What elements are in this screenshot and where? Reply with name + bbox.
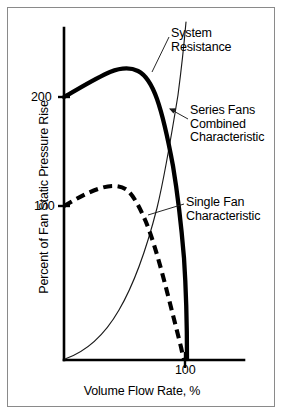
annotation-system-resistance-line2: Resistance [171, 41, 231, 55]
annotation-system-resistance: System Resistance [171, 27, 231, 54]
series-fans-curve [64, 68, 187, 359]
annotation-series-fans-line1: Series Fans [190, 104, 264, 118]
x-axis-title: Volume Flow Rate, % [0, 384, 284, 398]
annotation-series-fans: Series Fans Combined Characteristic [190, 104, 264, 145]
x-axis-tick-label-100: 100 [175, 363, 196, 377]
y-axis-title: Percent of Fan Static Pressure Rise [37, 67, 51, 327]
single-fan-curve [64, 186, 184, 359]
annotation-single-fan-line2: Characteristic [186, 210, 260, 224]
annotation-single-fan-line1: Single Fan [186, 196, 260, 210]
annotation-single-fan: Single Fan Characteristic [186, 196, 260, 223]
fan-curve-figure: 200 100 100 Volume Flow Rate, % Percent … [0, 0, 284, 416]
system-resistance-curve [65, 22, 186, 359]
annotation-series-fans-line2: Combined [190, 118, 264, 132]
annotation-system-resistance-line1: System [171, 27, 231, 41]
annotation-series-fans-line3: Characteristic [190, 131, 264, 145]
system-resistance-leader [152, 37, 169, 72]
